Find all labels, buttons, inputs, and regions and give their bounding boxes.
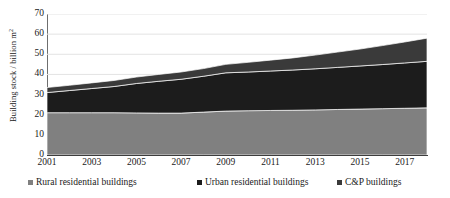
plot-area	[47, 14, 427, 155]
chart-legend: Rural residential buildingsUrban residen…	[0, 178, 450, 194]
legend-label: Rural residential buildings	[36, 178, 137, 188]
y-axis-title: Building stock / billion m2	[8, 0, 19, 150]
area-series-group	[47, 14, 427, 155]
legend-swatch-icon	[197, 180, 202, 185]
x-axis-tick-2001: 2001	[38, 158, 57, 168]
x-axis-tick-2009: 2009	[216, 158, 235, 168]
y-axis-tick-30: 30	[35, 90, 45, 100]
x-axis-line	[47, 155, 428, 156]
y-axis-tick-50: 50	[35, 50, 45, 60]
x-axis-tick-2003: 2003	[82, 158, 101, 168]
y-axis-tick-70: 70	[35, 9, 45, 19]
x-axis-tick-2017: 2017	[395, 158, 414, 168]
stacked-area-chart: Building stock / billion m2 010203040506…	[0, 0, 450, 198]
legend-swatch-icon	[28, 180, 33, 185]
x-axis-tick-2015: 2015	[350, 158, 369, 168]
legend-item-urban-residential-buildings[interactable]: Urban residential buildings	[197, 178, 308, 188]
legend-swatch-icon	[337, 180, 342, 185]
y-axis-tick-40: 40	[35, 70, 45, 80]
x-axis-tick-2011: 2011	[261, 158, 280, 168]
legend-label: C&P buildings	[345, 178, 401, 188]
legend-item-c-p-buildings[interactable]: C&P buildings	[337, 178, 401, 188]
x-axis-tick-2007: 2007	[172, 158, 191, 168]
y-axis-tick-60: 60	[35, 29, 45, 39]
x-axis-tick-2013: 2013	[306, 158, 325, 168]
x-axis-tick-labels: 200120032005200720092011201320152017	[0, 158, 450, 174]
legend-item-rural-residential-buildings[interactable]: Rural residential buildings	[28, 178, 137, 188]
y-axis-tick-10: 10	[35, 130, 45, 140]
x-axis-tick-2005: 2005	[127, 158, 146, 168]
y-axis-tick-20: 20	[35, 110, 45, 120]
legend-label: Urban residential buildings	[205, 178, 308, 188]
area-series-rural-residential-buildings	[47, 108, 427, 155]
